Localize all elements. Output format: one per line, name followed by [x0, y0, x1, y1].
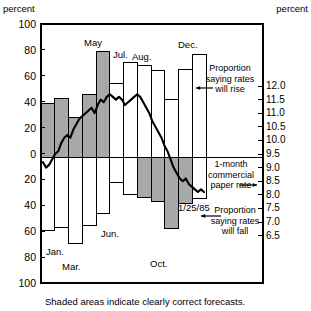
- bar-fall-Jun: [110, 157, 124, 182]
- bar-fall-Mar: [69, 157, 83, 244]
- fall-annotation-line-1: Proportion: [203, 205, 267, 216]
- bar-fall-Jan: [41, 157, 55, 230]
- bar-fall-Aug: [137, 157, 151, 197]
- category-label-Jan: Jan.: [46, 247, 64, 257]
- end-date-annotation: 1/25/85: [178, 203, 210, 213]
- right-tick-label-8.5: 8.5: [266, 176, 280, 186]
- bar-rise-Apr: [82, 94, 96, 157]
- category-label-Mar: Mar.: [62, 262, 80, 272]
- left-tick-label-0-5: 0: [2, 149, 36, 160]
- left-tick-label-100-10: 100: [2, 278, 36, 289]
- rate-annotation-line-2: commercial: [200, 170, 262, 181]
- category-label-May: May: [84, 38, 102, 48]
- right-tick-label-10.0: 10.0: [266, 135, 285, 145]
- right-tick-label-12.0: 12.0: [266, 81, 285, 91]
- right-tick-label-9.0: 9.0: [266, 163, 280, 173]
- right-tick-label-6.5: 6.5: [266, 231, 280, 241]
- left-tick-label-40-3: 40: [2, 97, 36, 108]
- right-tick-label-9.5: 9.5: [266, 149, 280, 159]
- left-tick-label-20-4: 20: [2, 123, 36, 134]
- category-label-Jun: Jun.: [101, 229, 119, 239]
- right-tick-label-11.0: 11.0: [266, 108, 285, 118]
- right-tick-label-10.5: 10.5: [266, 122, 285, 132]
- left-tick-label-80-1: 80: [2, 45, 36, 56]
- left-tick-label-80-9: 80: [2, 252, 36, 263]
- fall-annotation-line-2: saying rates: [203, 216, 267, 227]
- left-tick-label-100-0: 100: [2, 19, 36, 30]
- right-tick-label-7.5: 7.5: [266, 203, 280, 213]
- chart-figure: percent percent 10080604020020406080100 …: [0, 0, 311, 311]
- bar-fall-Apr: [82, 157, 96, 225]
- chart-footnote: Shaded areas indicate clearly correct fo…: [45, 297, 245, 307]
- rate-annotation-line-3: paper rate: [200, 180, 262, 191]
- left-tick-label-20-6: 20: [2, 174, 36, 185]
- left-tick-label-40-7: 40: [2, 200, 36, 211]
- left-tick-label-60-8: 60: [2, 226, 36, 237]
- category-label-Aug: Aug.: [132, 52, 152, 62]
- bar-rise-Feb: [55, 98, 69, 157]
- bar-fall-Feb: [55, 157, 69, 228]
- category-label-Dec: Dec.: [178, 40, 198, 50]
- rate-annotation-line-1: 1-month: [200, 159, 262, 170]
- left-tick-label-60-2: 60: [2, 71, 36, 82]
- right-tick-label-8.0: 8.0: [266, 190, 280, 200]
- bar-rise-Jul: [124, 63, 138, 157]
- fall-annotation: Proportion saying rates will fall: [203, 205, 267, 237]
- bar-fall-May: [96, 157, 110, 214]
- right-tick-label-11.5: 11.5: [266, 95, 285, 105]
- bar-rise-Nov: [179, 69, 193, 157]
- rise-annotation-line-3: will rise: [196, 84, 264, 95]
- rise-annotation-line-2: saying rates: [196, 74, 264, 85]
- category-label-Jul: Jul.: [113, 50, 128, 60]
- rise-annotation-line-1: Proportion: [196, 63, 264, 74]
- bar-rise-Sep: [151, 71, 165, 157]
- category-label-Oct: Oct.: [150, 259, 167, 269]
- bar-fall-Sep: [151, 157, 165, 201]
- fall-annotation-line-3: will fall: [203, 226, 267, 237]
- rate-annotation: 1-month commercial paper rate: [200, 159, 262, 191]
- bar-rise-Jan: [41, 104, 55, 157]
- bar-fall-Jul: [124, 157, 138, 195]
- bars-fall-group: [41, 157, 206, 244]
- right-tick-label-7.0: 7.0: [266, 217, 280, 227]
- rise-annotation: Proportion saying rates will rise: [196, 63, 264, 95]
- bar-fall-Oct: [165, 157, 179, 229]
